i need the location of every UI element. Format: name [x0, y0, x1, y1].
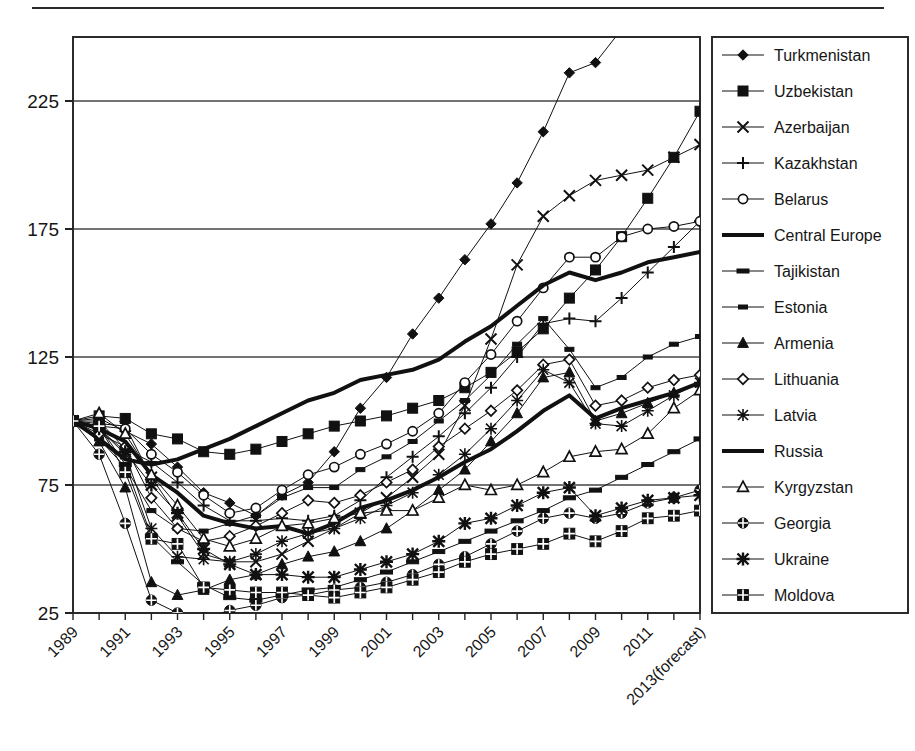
legend-item-label: Uzbekistan	[774, 83, 853, 100]
data-point-marker	[511, 499, 524, 512]
data-point-marker	[330, 486, 339, 490]
data-point-marker	[537, 509, 549, 513]
series-uzbekistan	[68, 106, 705, 459]
legend-item-label: Tajikistan	[774, 263, 840, 280]
legend-item-label: Moldova	[774, 587, 835, 604]
data-point-marker	[119, 445, 132, 458]
data-point-marker	[617, 375, 626, 379]
data-point-marker	[642, 165, 653, 176]
data-point-marker	[539, 317, 548, 321]
data-point-marker	[485, 512, 498, 525]
data-point-marker	[328, 571, 341, 584]
legend: TurkmenistanUzbekistanAzerbaijanKazakhst…	[712, 37, 908, 613]
data-point-marker	[513, 317, 522, 326]
data-point-marker	[512, 178, 522, 188]
data-point-marker	[251, 514, 260, 518]
data-point-marker	[696, 335, 705, 339]
x-tick-label: 1989	[44, 623, 81, 660]
data-point-marker	[737, 553, 750, 566]
data-point-marker	[460, 399, 469, 403]
data-point-marker	[563, 481, 576, 494]
data-point-marker	[249, 568, 262, 581]
x-tick-label: 1993	[148, 623, 185, 660]
data-point-marker	[694, 489, 707, 502]
legend-item-label: Central Europe	[774, 227, 882, 244]
x-tick-label: 2011	[620, 623, 656, 659]
data-point-marker	[382, 411, 392, 421]
data-point-marker	[590, 175, 601, 186]
series-layer	[67, 0, 707, 623]
data-point-marker	[616, 420, 628, 432]
data-point-marker	[565, 347, 574, 351]
data-point-marker	[485, 423, 497, 435]
legend-item-label: Lithuania	[774, 371, 839, 388]
data-point-marker	[512, 259, 523, 270]
data-point-marker	[250, 533, 261, 543]
x-axis: 1989199119931995199719992001200320052007…	[44, 613, 708, 708]
data-point-marker	[589, 509, 602, 522]
data-point-marker	[564, 293, 574, 303]
data-point-marker	[563, 313, 575, 325]
data-point-marker	[303, 429, 313, 439]
data-point-marker	[354, 563, 367, 576]
data-point-marker	[302, 571, 315, 584]
data-point-marker	[563, 377, 575, 389]
y-tick-label: 75	[38, 475, 59, 496]
data-point-marker	[564, 367, 575, 377]
data-point-marker	[407, 505, 418, 515]
data-point-marker	[304, 486, 313, 490]
data-point-marker	[486, 406, 496, 416]
legend-item-label: Belarus	[774, 191, 828, 208]
data-point-marker	[669, 342, 678, 346]
legend-item-label: Latvia	[774, 407, 817, 424]
data-point-marker	[460, 255, 470, 265]
data-point-marker	[120, 482, 131, 492]
data-point-marker	[590, 57, 600, 67]
data-point-marker	[485, 529, 497, 533]
x-tick-label: 2003	[410, 623, 447, 660]
legend-item-label: Kazakhstan	[774, 155, 858, 172]
data-point-marker	[276, 535, 288, 547]
data-point-marker	[738, 194, 747, 203]
data-point-marker	[486, 350, 495, 359]
data-point-marker	[381, 477, 391, 487]
data-point-marker	[225, 498, 235, 508]
data-point-marker	[538, 466, 549, 476]
data-point-marker	[537, 486, 550, 499]
data-point-marker	[197, 543, 210, 556]
data-point-marker	[537, 364, 549, 376]
data-point-marker	[172, 551, 184, 563]
data-point-marker	[694, 437, 706, 441]
data-point-marker	[512, 408, 523, 418]
data-point-marker	[538, 211, 549, 222]
data-point-marker	[382, 455, 391, 459]
chart-container: 2575125175225 19891991199319951997199920…	[0, 0, 915, 751]
data-point-marker	[563, 496, 575, 500]
data-point-marker	[617, 232, 626, 241]
y-tick-label: 175	[27, 219, 59, 240]
data-point-marker	[251, 444, 261, 454]
data-point-marker	[382, 439, 391, 448]
data-point-marker	[616, 475, 628, 479]
data-point-marker	[695, 217, 704, 226]
data-point-marker	[147, 450, 156, 459]
y-tick-label: 125	[27, 347, 59, 368]
data-point-marker	[277, 436, 287, 446]
data-point-marker	[460, 423, 470, 433]
data-point-marker	[590, 400, 600, 410]
data-point-marker	[432, 535, 445, 548]
x-tick-label: 2007	[514, 623, 551, 660]
gridlines	[73, 101, 700, 485]
data-point-marker	[277, 508, 287, 518]
data-point-marker	[513, 342, 522, 346]
data-point-marker	[538, 127, 548, 137]
data-point-marker	[355, 416, 365, 426]
data-point-marker	[616, 170, 627, 181]
data-point-marker	[615, 502, 628, 515]
data-point-marker	[304, 470, 313, 479]
data-point-marker	[224, 596, 236, 600]
series-line	[73, 111, 700, 454]
figure-root: 2575125175225 19891991199319951997199920…	[0, 0, 915, 751]
data-point-marker	[199, 491, 208, 500]
data-point-marker	[695, 106, 705, 116]
